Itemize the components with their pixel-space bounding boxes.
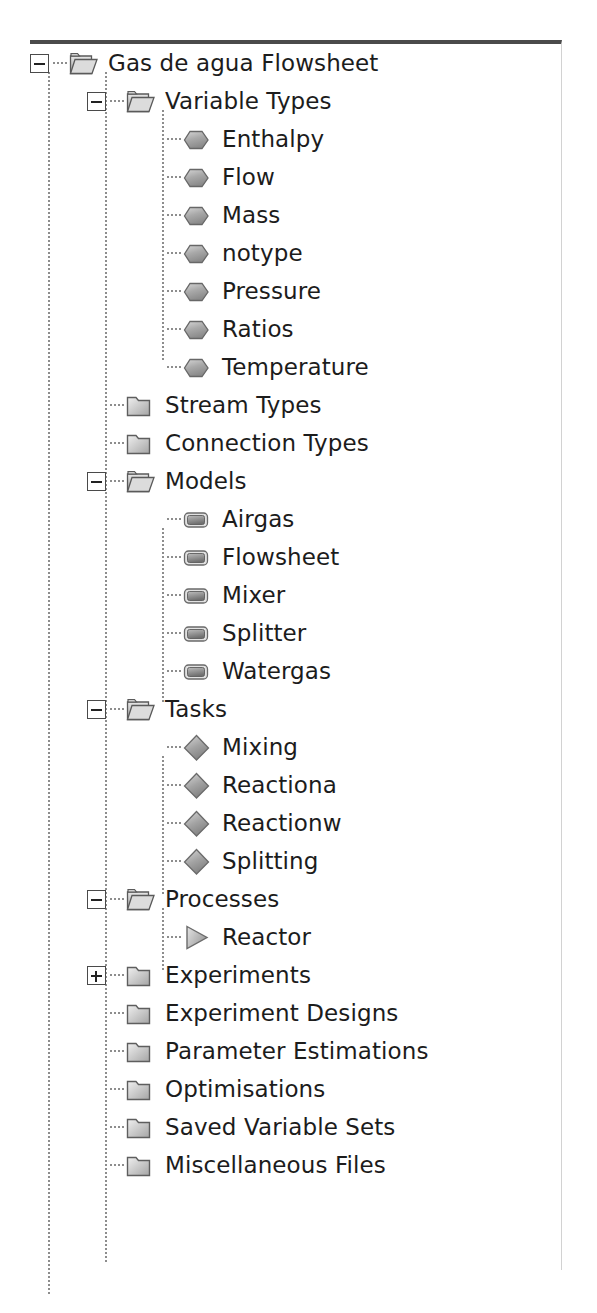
folder-closed-icon: [126, 1000, 156, 1027]
diamond-icon: [183, 772, 213, 799]
tree-item-watergas[interactable]: Watergas: [30, 652, 561, 690]
tree-item-connection-types[interactable]: Connection Types: [30, 424, 561, 462]
folder-closed-icon: [126, 392, 156, 419]
tree-item-label: Stream Types: [165, 394, 322, 417]
collapse-button-models[interactable]: [87, 472, 106, 491]
collapse-button-tasks[interactable]: [87, 700, 106, 719]
tree-item-label: Models: [165, 470, 247, 493]
tree-item-mixing[interactable]: Mixing: [30, 728, 561, 766]
tree-item-label: Flow: [222, 166, 275, 189]
expander-spacer: [144, 548, 163, 567]
connector-stub: [110, 480, 125, 482]
tree-item-gas-de-agua-flowsheet[interactable]: Gas de agua Flowsheet: [30, 44, 561, 82]
tree-rows: Gas de agua FlowsheetVariable TypesEntha…: [30, 44, 561, 1184]
expander-spacer: [87, 396, 106, 415]
hexagon-icon: [183, 278, 213, 305]
triangle-play-icon: [183, 924, 213, 951]
tree-item-label: Enthalpy: [222, 128, 324, 151]
tree-item-experiments[interactable]: Experiments: [30, 956, 561, 994]
connector-stub: [110, 708, 125, 710]
folder-closed-icon: [126, 1038, 156, 1065]
expander-spacer: [87, 1156, 106, 1175]
tree-item-label: notype: [222, 242, 303, 265]
tree-item-pressure[interactable]: Pressure: [30, 272, 561, 310]
expander-spacer: [144, 206, 163, 225]
tree-item-label: Saved Variable Sets: [165, 1116, 395, 1139]
tree-item-mixer[interactable]: Mixer: [30, 576, 561, 614]
tree-item-variable-types[interactable]: Variable Types: [30, 82, 561, 120]
tree-item-flowsheet[interactable]: Flowsheet: [30, 538, 561, 576]
connector-stub: [167, 784, 182, 786]
folder-open-icon: [126, 696, 156, 723]
folder-open-icon: [126, 468, 156, 495]
tree-item-miscellaneous-files[interactable]: Miscellaneous Files: [30, 1146, 561, 1184]
tree-item-notype[interactable]: notype: [30, 234, 561, 272]
tree-item-reactiona[interactable]: Reactiona: [30, 766, 561, 804]
tree-item-label: Mixing: [222, 736, 298, 759]
tree-item-label: Processes: [165, 888, 279, 911]
tree-item-models[interactable]: Models: [30, 462, 561, 500]
tree-item-label: Watergas: [222, 660, 331, 683]
connector-stub: [110, 1126, 125, 1128]
tree-item-stream-types[interactable]: Stream Types: [30, 386, 561, 424]
tree-item-temperature[interactable]: Temperature: [30, 348, 561, 386]
diamond-icon: [183, 848, 213, 875]
connector-stub: [167, 252, 182, 254]
tree-item-splitter[interactable]: Splitter: [30, 614, 561, 652]
tree-item-mass[interactable]: Mass: [30, 196, 561, 234]
tree-item-ratios[interactable]: Ratios: [30, 310, 561, 348]
collapse-button-gas-de-agua-flowsheet[interactable]: [30, 54, 49, 73]
rounded-rect-icon: [183, 506, 213, 533]
folder-closed-icon: [126, 1114, 156, 1141]
tree-item-reactor[interactable]: Reactor: [30, 918, 561, 956]
tree-item-tasks[interactable]: Tasks: [30, 690, 561, 728]
collapse-button-processes[interactable]: [87, 890, 106, 909]
tree-item-processes[interactable]: Processes: [30, 880, 561, 918]
expander-spacer: [144, 662, 163, 681]
connector-stub: [167, 328, 182, 330]
connector-stub: [110, 100, 125, 102]
connector-stub: [110, 1050, 125, 1052]
expander-spacer: [144, 282, 163, 301]
tree-item-optimisations[interactable]: Optimisations: [30, 1070, 561, 1108]
connector-stub: [167, 366, 182, 368]
connector-stub: [110, 1088, 125, 1090]
tree-item-label: Mass: [222, 204, 280, 227]
expander-spacer: [144, 586, 163, 605]
hexagon-icon: [183, 240, 213, 267]
expander-spacer: [144, 624, 163, 643]
expand-button-experiments[interactable]: [87, 966, 106, 985]
tree-item-flow[interactable]: Flow: [30, 158, 561, 196]
rounded-rect-icon: [183, 544, 213, 571]
tree-item-label: Ratios: [222, 318, 294, 341]
tree-item-enthalpy[interactable]: Enthalpy: [30, 120, 561, 158]
tree-item-label: Reactor: [222, 926, 311, 949]
diamond-icon: [183, 734, 213, 761]
tree-item-label: Connection Types: [165, 432, 369, 455]
hexagon-icon: [183, 354, 213, 381]
rounded-rect-icon: [183, 658, 213, 685]
tree-item-splitting[interactable]: Splitting: [30, 842, 561, 880]
tree-item-reactionw[interactable]: Reactionw: [30, 804, 561, 842]
tree-item-label: Reactionw: [222, 812, 342, 835]
tree-item-parameter-estimations[interactable]: Parameter Estimations: [30, 1032, 561, 1070]
tree-item-saved-variable-sets[interactable]: Saved Variable Sets: [30, 1108, 561, 1146]
tree-item-label: Optimisations: [165, 1078, 325, 1101]
connector-stub: [167, 556, 182, 558]
flowsheet-project-tree[interactable]: Gas de agua FlowsheetVariable TypesEntha…: [30, 40, 562, 1270]
tree-item-experiment-designs[interactable]: Experiment Designs: [30, 994, 561, 1032]
connector-stub: [110, 404, 125, 406]
collapse-button-variable-types[interactable]: [87, 92, 106, 111]
tree-item-label: Splitting: [222, 850, 318, 873]
connector-stub: [167, 670, 182, 672]
tree-item-label: Experiments: [165, 964, 311, 987]
connector-stub: [167, 822, 182, 824]
rounded-rect-icon: [183, 582, 213, 609]
tree-item-label: Tasks: [165, 698, 227, 721]
folder-closed-icon: [126, 1076, 156, 1103]
hexagon-icon: [183, 164, 213, 191]
expander-spacer: [87, 1080, 106, 1099]
tree-item-airgas[interactable]: Airgas: [30, 500, 561, 538]
expander-spacer: [87, 1118, 106, 1137]
connector-stub: [167, 138, 182, 140]
